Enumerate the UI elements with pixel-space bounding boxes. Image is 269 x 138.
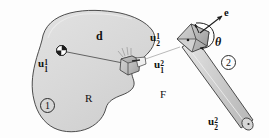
label-theta: θ xyxy=(215,36,221,48)
mechanics-figure: u11 d u21 u12 u22 e θ R F 1 2 xyxy=(0,0,269,138)
label-region-r: R xyxy=(85,93,92,104)
label-u21: u12 xyxy=(150,32,161,43)
body-number-1: 1 xyxy=(40,98,55,113)
e-axis-arrow-icon xyxy=(200,16,222,33)
label-u22: u22 xyxy=(208,116,219,127)
label-e: e xyxy=(224,8,229,19)
label-u12: u21 xyxy=(154,59,165,70)
origin-marker-icon xyxy=(57,46,67,56)
joint-marker-icon xyxy=(187,39,190,42)
label-region-f: F xyxy=(160,89,166,100)
body-number-2: 2 xyxy=(221,55,236,70)
label-d: d xyxy=(96,30,103,42)
label-u11: u11 xyxy=(38,58,49,69)
